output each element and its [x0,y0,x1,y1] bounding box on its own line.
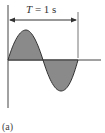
negative-half-cycle [43,60,78,91]
period-value: 1 s [44,3,57,15]
figure-caption: (a) [2,121,13,132]
period-symbol: T [26,3,32,15]
period-label: T = 1 s [26,3,56,15]
arrowhead-right-icon [71,18,77,23]
positive-half-cycle [8,30,43,60]
sine-wave-figure [0,0,105,133]
period-equals: = [35,3,41,15]
arrowhead-left-icon [9,18,15,23]
